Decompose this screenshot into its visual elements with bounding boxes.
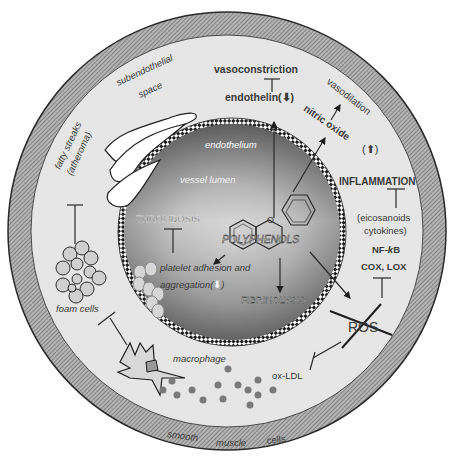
label-vasoconstriction: vasoconstriction [214,63,298,75]
label-foam-cells: foam cells [56,303,99,314]
label-fibrinolysis: FIBRINOLYSIS [241,294,306,305]
label-cox-lox: COX, LOX [361,261,407,272]
label-inflammation: INFLAMMATION [339,176,415,187]
label-platelet-adhesion: platelet adhesion and [159,262,251,273]
down-arrow-icon: ⬇ [213,279,221,290]
label-macrophage: macrophage [173,353,226,364]
label-aggregation: aggregation(⬇) [160,279,225,290]
label-ros: ROS [348,319,378,335]
label-endothelin: endothelin(⬇) [225,91,294,103]
label-vessel-lumen: vessel lumen [180,174,235,185]
label-thrombosis: THROMBOSIS [136,213,200,224]
label-ox-ldl: ox-LDL [272,370,303,381]
label-eicosanoids: (eicosanoids [357,212,411,223]
label-endothelium: endothelium [205,139,257,150]
svg-text:O: O [267,215,274,225]
label-muscle: muscle [216,437,246,448]
down-arrow-icon: ⬇ [282,91,291,103]
label-cells: cells [266,433,286,446]
label-cytokines: cytokines) [364,225,407,236]
label-nfkb: NF-kB [372,244,400,255]
up-arrow-icon: (⬆) [362,143,378,155]
label-polyphenols: POLYPHENOLS [222,233,299,245]
diagram-canvas: O vasoconstriction endothelin(⬇) vasodil… [0,0,457,461]
